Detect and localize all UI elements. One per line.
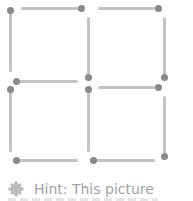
match-head-icon	[85, 86, 92, 93]
cut-off-text-line	[8, 198, 158, 201]
match-head-icon	[13, 78, 20, 85]
matchstick-tr-top[interactable]	[98, 7, 160, 10]
hint-row[interactable]: Hint: This picture	[8, 181, 154, 197]
matchstick-br-right[interactable]	[163, 96, 166, 158]
hint-text: Hint: This picture	[34, 181, 154, 197]
matchstick-br-top[interactable]	[98, 86, 160, 89]
matchstick-tl-left[interactable]	[9, 9, 12, 72]
matchstick-bl-left[interactable]	[9, 88, 12, 152]
matchstick-tl-bottom[interactable]	[15, 80, 78, 83]
match-head-icon	[161, 74, 168, 81]
match-head-icon	[161, 153, 168, 160]
matchstick-board	[0, 0, 193, 170]
matchstick-br-bottom[interactable]	[92, 159, 155, 162]
matchstick-tl-right[interactable]	[87, 17, 90, 79]
matchstick-bl-right[interactable]	[87, 88, 90, 152]
match-head-icon	[7, 86, 14, 93]
match-head-icon	[90, 157, 97, 164]
matchstick-tr-right[interactable]	[163, 17, 166, 79]
match-head-icon	[155, 5, 162, 12]
matchstick-tl-top[interactable]	[21, 7, 83, 10]
hint-flower-icon	[8, 181, 24, 197]
match-head-icon	[7, 7, 14, 14]
matchstick-bl-bottom[interactable]	[15, 159, 78, 162]
match-head-icon	[78, 5, 85, 12]
match-head-icon	[85, 74, 92, 81]
match-head-icon	[155, 84, 162, 91]
match-head-icon	[13, 157, 20, 164]
